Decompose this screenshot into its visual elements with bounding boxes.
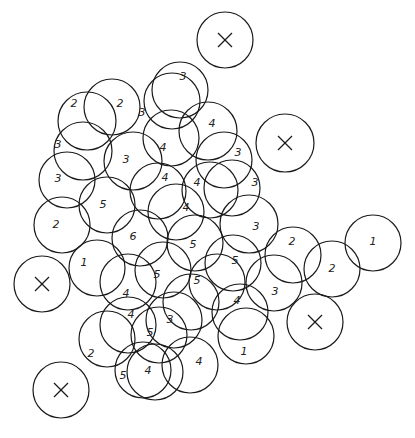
circle-count-label: 3 (272, 285, 279, 298)
circle-count-label: 3 (180, 70, 187, 83)
circle-count-label: 4 (194, 176, 201, 189)
circle-count-label: 5 (232, 254, 239, 267)
circle-outline (79, 177, 135, 233)
circle-node (58, 92, 116, 150)
circle-count-label: 2 (53, 218, 60, 231)
circle-outline (104, 132, 162, 190)
circle-overlap-diagram: 2233334432543434365145552213413542544 (0, 0, 415, 438)
circle-outline (144, 73, 200, 129)
circle-count-label: 2 (289, 235, 296, 248)
circle-node (69, 240, 125, 296)
circle-count-label: 5 (100, 198, 107, 211)
circle-node (179, 102, 237, 160)
circle-count-label: 4 (145, 364, 152, 377)
circle-count-label: 4 (162, 171, 169, 184)
circle-count-label: 6 (130, 230, 137, 243)
circle-outline (131, 307, 187, 363)
circle-count-label: 5 (120, 369, 127, 382)
circle-count-label: 3 (55, 138, 62, 151)
excluded-circle (33, 362, 89, 418)
circle-outline (100, 254, 156, 310)
circle-count-label: 1 (81, 256, 88, 269)
circle-count-label: 3 (252, 176, 259, 189)
excluded-circle (287, 294, 343, 350)
excluded-circle (197, 12, 253, 68)
excluded-circle (256, 114, 314, 172)
excluded-circle (14, 256, 70, 312)
circle-node (144, 73, 200, 129)
circle-count-label: 4 (183, 201, 190, 214)
circle-node (131, 307, 187, 363)
circle-count-label: 4 (209, 117, 216, 130)
circle-outline (179, 102, 237, 160)
circle-count-label: 4 (123, 287, 130, 300)
circle-outline (54, 122, 112, 180)
circle-count-label: 3 (235, 146, 242, 159)
circle-node (146, 292, 202, 348)
circle-node (100, 254, 156, 310)
circle-count-label: 2 (88, 347, 95, 360)
circle-diagram: 2233334432543434365145552213413542544 (0, 0, 415, 438)
circle-outline (220, 195, 278, 253)
circle-count-label: 1 (241, 345, 248, 358)
circle-count-label: 5 (190, 238, 197, 251)
circle-node (127, 344, 183, 400)
circle-node (104, 132, 162, 190)
circle-count-label: 3 (139, 106, 146, 119)
circle-outline (58, 92, 116, 150)
circle-count-label: 2 (117, 97, 124, 110)
circle-count-label: 5 (194, 274, 201, 287)
circle-outline (69, 240, 125, 296)
circle-outline (146, 292, 202, 348)
circle-count-label: 4 (196, 355, 203, 368)
circle-count-label: 3 (167, 313, 174, 326)
circle-count-label: 4 (128, 308, 135, 321)
circle-outline (135, 242, 191, 298)
circle-node (135, 242, 191, 298)
circle-count-label: 5 (147, 326, 154, 339)
circle-outline (127, 344, 183, 400)
circle-count-label: 5 (154, 268, 161, 281)
circle-node (54, 122, 112, 180)
circle-count-label: 1 (370, 235, 377, 248)
circle-count-label: 2 (71, 97, 78, 110)
circle-node (79, 177, 135, 233)
circle-node (112, 210, 168, 266)
circle-count-label: 3 (123, 153, 130, 166)
circle-outline (112, 210, 168, 266)
circle-count-label: 3 (55, 172, 62, 185)
circle-count-label: 3 (253, 220, 260, 233)
circle-count-label: 4 (160, 141, 167, 154)
circle-count-label: 4 (234, 294, 241, 307)
circle-node (220, 195, 278, 253)
circle-count-label: 2 (329, 262, 336, 275)
